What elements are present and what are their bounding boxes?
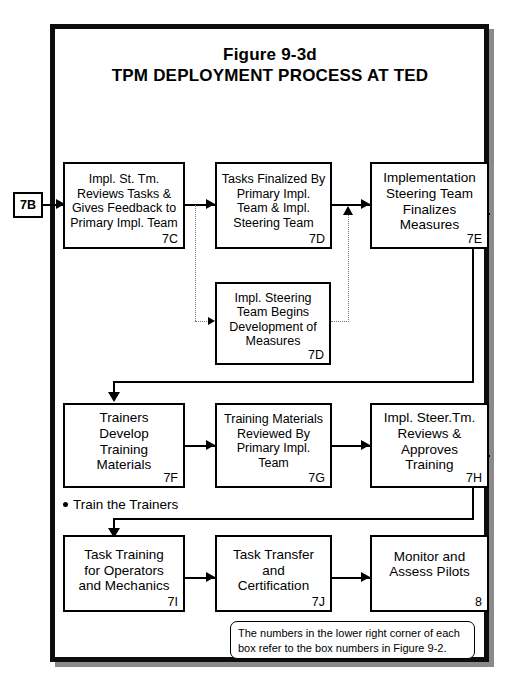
entry-tag-label: 7B: [20, 198, 36, 212]
arrowhead-7j-to-8: [361, 572, 370, 582]
process-box-7d-tasks[interactable]: Tasks Finalized By Primary Impl. Team & …: [215, 162, 332, 249]
process-box-7e[interactable]: Implementation Steering Team Finalizes M…: [370, 162, 489, 249]
process-box-7j-code: 7J: [312, 596, 325, 609]
process-box-8-text: Monitor and Assess Pilots: [375, 549, 484, 580]
process-box-7c[interactable]: Impl. St. Tm. Reviews Tasks & Gives Feed…: [63, 162, 185, 249]
dotted-connector-up-to-7e-line: [348, 214, 349, 322]
process-box-7e-code: 7E: [467, 233, 482, 246]
arrowhead-7f-to-7g: [206, 440, 215, 450]
process-box-7f-code: 7F: [163, 472, 178, 485]
dotted-connector-down-to-measures: [195, 205, 196, 321]
page-title: Figure 9-3d TPM DEPLOYMENT PROCESS AT TE…: [60, 44, 480, 87]
entry-tag-7b[interactable]: 7B: [13, 192, 43, 218]
arrowhead-into-measures: [208, 317, 215, 325]
process-box-7d-measures[interactable]: Impl. Steering Team Begins Development o…: [215, 282, 331, 365]
arrowhead-7e-to-7f: [108, 392, 120, 402]
arrowhead-7g-to-7h: [361, 440, 370, 450]
footnote-box: The numbers in the lower right corner of…: [230, 621, 475, 659]
connector-7h-to-7i-horizontal: [113, 518, 474, 520]
process-box-8-code: 8: [475, 596, 482, 609]
process-box-7g-text: Training Materials Reviewed By Primary I…: [220, 412, 327, 470]
process-box-7f-text: Trainers Develop Training Materials: [68, 410, 180, 473]
figure-page: { "figure": { "title_line1": "Figure 9-3…: [0, 0, 517, 696]
process-box-7d-measures-code: 7D: [308, 349, 324, 362]
arrowhead-up-to-7e-line: [343, 206, 353, 215]
process-box-7d-tasks-code: 7D: [309, 233, 325, 246]
dotted-connector-out-of-measures: [331, 321, 349, 322]
process-box-7j[interactable]: Task Transfer and Certification 7J: [215, 535, 332, 612]
figure-number: Figure 9-3d: [60, 44, 480, 65]
process-box-7h-text: Impl. Steer.Tm. Reviews & Approves Train…: [375, 410, 484, 473]
process-box-7j-text: Task Transfer and Certification: [220, 546, 327, 593]
process-box-7f[interactable]: Trainers Develop Training Materials 7F: [63, 403, 185, 488]
process-box-8[interactable]: Monitor and Assess Pilots 8: [370, 535, 489, 612]
figure-title: TPM DEPLOYMENT PROCESS AT TED: [60, 65, 480, 86]
process-box-7i-code: 7I: [168, 596, 178, 609]
process-box-7e-text: Implementation Steering Team Finalizes M…: [375, 170, 484, 233]
process-box-7i-text: Task Training for Operators and Mechanic…: [68, 546, 180, 593]
arrowhead-7i-to-7j: [206, 572, 215, 582]
process-box-7h[interactable]: Impl. Steer.Tm. Reviews & Approves Train…: [370, 403, 489, 488]
bullet-dot-icon: [63, 502, 68, 507]
arrowhead-7c-to-7d: [206, 199, 215, 209]
process-box-7g[interactable]: Training Materials Reviewed By Primary I…: [215, 403, 332, 488]
footnote-text: The numbers in the lower right corner of…: [238, 627, 460, 654]
bullet-note-train-the-trainers: Train the Trainers: [63, 497, 178, 512]
bullet-note-label: Train the Trainers: [73, 497, 178, 512]
process-box-7h-code: 7H: [466, 472, 482, 485]
process-box-7i[interactable]: Task Training for Operators and Mechanic…: [63, 535, 185, 612]
process-box-7c-text: Impl. St. Tm. Reviews Tasks & Gives Feed…: [68, 172, 180, 230]
arrowhead-7d-to-7e: [361, 199, 370, 209]
process-box-7g-code: 7G: [308, 472, 325, 485]
process-box-7d-tasks-text: Tasks Finalized By Primary Impl. Team & …: [220, 172, 327, 230]
process-box-7d-measures-text: Impl. Steering Team Begins Development o…: [220, 291, 326, 349]
process-box-7c-code: 7C: [162, 233, 178, 246]
connector-7e-to-7f-horizontal: [113, 381, 474, 383]
